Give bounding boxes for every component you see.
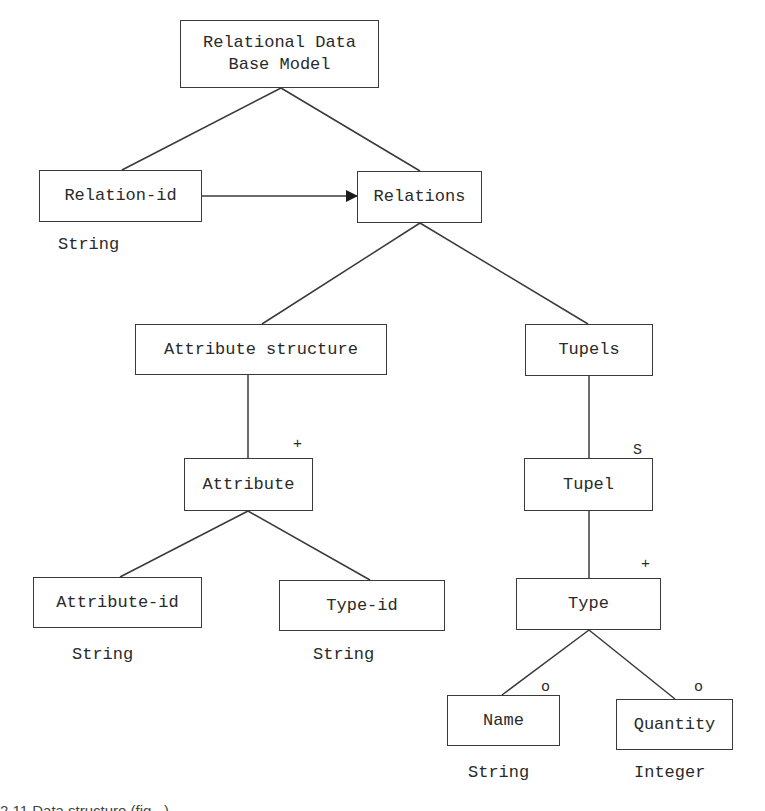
- diagram-edges: [0, 0, 765, 811]
- iteration-marker-attribute: +: [293, 437, 302, 453]
- node-attribute: Attribute: [184, 458, 313, 511]
- option-marker-quantity: o: [694, 680, 703, 696]
- type-label-attribute-id: String: [72, 645, 133, 665]
- edge-attribute-attribute-id: [120, 511, 248, 577]
- node-quantity: Quantity: [616, 699, 733, 750]
- iteration-marker-type: +: [641, 557, 650, 573]
- node-attribute-structure: Attribute structure: [135, 324, 387, 375]
- node-type: Type: [516, 578, 661, 630]
- node-name: Name: [447, 695, 560, 746]
- node-relational-database-model: Relational Data Base Model: [180, 20, 379, 88]
- edge-root-relation-id: [122, 88, 281, 170]
- node-attribute-id: Attribute-id: [33, 577, 202, 628]
- node-type-id: Type-id: [279, 580, 445, 631]
- figure-caption: 2.11 Data structure (fig...) ...: [0, 797, 765, 811]
- edge-attribute-type-id: [248, 511, 370, 580]
- type-label-quantity: Integer: [634, 763, 705, 783]
- type-label-type-id: String: [313, 645, 374, 665]
- node-relation-id: Relation-id: [39, 170, 202, 222]
- type-label-name: String: [468, 763, 529, 783]
- option-marker-name: o: [541, 680, 550, 696]
- sequence-marker-tupel: S: [633, 443, 642, 459]
- node-tupel: Tupel: [524, 458, 653, 511]
- node-tupels: Tupels: [525, 324, 653, 376]
- edge-root-relations: [281, 88, 420, 171]
- type-label-relation-id: String: [58, 235, 119, 255]
- edge-relations-tupels: [420, 223, 588, 324]
- node-relations: Relations: [357, 171, 482, 223]
- edge-type-quantity: [589, 630, 675, 699]
- edge-relations-attribute-structure: [262, 223, 420, 324]
